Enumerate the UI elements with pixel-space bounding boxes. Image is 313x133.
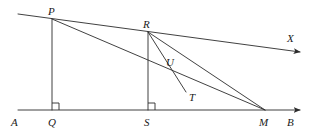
- point-label-T: T: [189, 92, 195, 103]
- point-label-M: M: [259, 117, 268, 128]
- point-label-B: B: [287, 117, 294, 128]
- right-angle-at-Q: [52, 103, 59, 110]
- cevian-R-to-M: [148, 32, 265, 110]
- point-label-X: X: [287, 33, 294, 44]
- ray-L-through-P-R-to-X: [18, 14, 300, 52]
- point-label-R: R: [143, 19, 150, 30]
- point-label-Q: Q: [48, 117, 56, 128]
- point-label-S: S: [144, 117, 150, 128]
- geometry-canvas: [0, 0, 313, 133]
- geometry-figure: P R X U T A Q S M B: [0, 0, 313, 133]
- point-label-P: P: [48, 6, 55, 17]
- right-angle-markers-group: [52, 103, 155, 110]
- lines-group: [18, 14, 300, 110]
- point-label-A: A: [11, 117, 18, 128]
- right-angle-at-S: [148, 103, 155, 110]
- point-label-U: U: [166, 57, 174, 68]
